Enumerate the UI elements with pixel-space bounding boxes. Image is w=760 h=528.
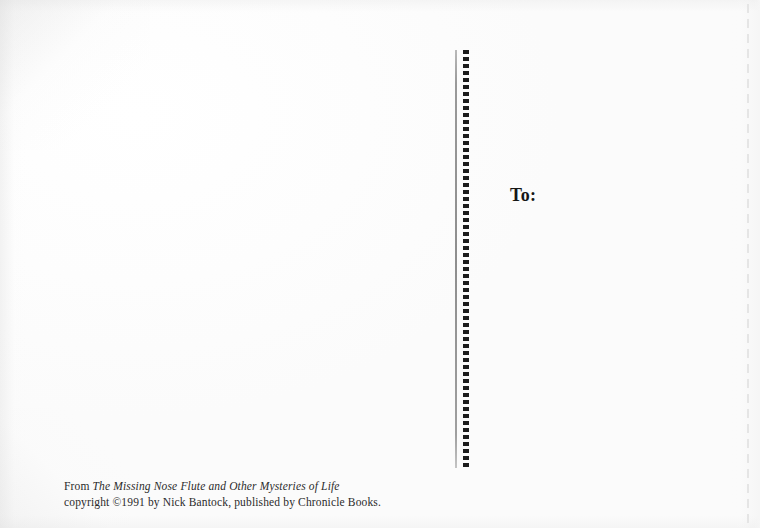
paper-shading-left [0,0,26,528]
perforation-edge-shadow [754,0,760,528]
credit-line-source: From The Missing Nose Flute and Other My… [64,478,381,494]
divider-hairline [455,50,457,468]
credit-source-prefix: From [64,480,93,492]
paper-shading-bottom-left [0,408,130,528]
credit-book-title: The Missing Nose Flute and Other Mysteri… [93,480,340,492]
postcard-back: To: From The Missing Nose Flute and Othe… [0,0,760,528]
divider-dotted-rule [463,50,469,468]
credit-block: From The Missing Nose Flute and Other My… [64,478,381,510]
address-to-label: To: [510,185,536,206]
perforation-edge-dashes [747,4,749,524]
paper-shading-top [0,0,760,20]
credit-line-copyright: copyright ©1991 by Nick Bantock, publish… [64,494,381,510]
paper-shading-top-left [0,0,150,150]
